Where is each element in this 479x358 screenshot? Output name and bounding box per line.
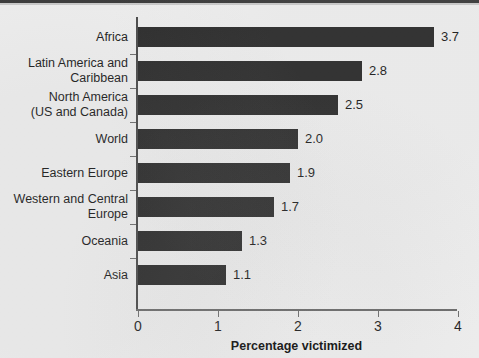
bar <box>138 163 290 183</box>
bar <box>138 197 274 217</box>
bar-value-label: 2.8 <box>369 61 387 81</box>
x-axis-tick <box>298 311 299 317</box>
bar-value-label: 1.9 <box>297 163 315 183</box>
category-label: Western and Central Europe <box>0 192 128 222</box>
x-axis-tick <box>218 311 219 317</box>
plot-area: Africa3.7Latin America and Caribbean2.8N… <box>0 0 479 358</box>
y-axis-tick <box>130 258 136 259</box>
x-axis-tick-label: 3 <box>363 318 393 334</box>
bar <box>138 27 434 47</box>
x-axis-tick <box>138 311 139 317</box>
bar-value-label: 1.7 <box>281 197 299 217</box>
bar <box>138 231 242 251</box>
x-axis-tick-label: 1 <box>203 318 233 334</box>
y-axis-tick <box>130 54 136 55</box>
x-axis-title: Percentage victimized <box>136 339 457 353</box>
x-axis-tick <box>458 311 459 317</box>
x-axis-tick-label: 2 <box>283 318 313 334</box>
category-label: Oceania <box>0 234 128 249</box>
y-axis-tick <box>130 190 136 191</box>
x-axis-line <box>136 309 457 311</box>
bar-value-label: 1.1 <box>233 265 251 285</box>
chart-figure: Africa3.7Latin America and Caribbean2.8N… <box>0 0 479 358</box>
y-axis-tick <box>130 156 136 157</box>
category-label: North America (US and Canada) <box>0 90 128 120</box>
y-axis-tick <box>130 88 136 89</box>
category-label: Latin America and Caribbean <box>0 56 128 86</box>
category-label: World <box>0 132 128 147</box>
bar <box>138 129 298 149</box>
x-axis-tick-label: 4 <box>443 318 473 334</box>
bar-value-label: 3.7 <box>441 27 459 47</box>
x-axis-tick <box>378 311 379 317</box>
bar-value-label: 2.0 <box>305 129 323 149</box>
x-axis-tick-label: 0 <box>123 318 153 334</box>
category-label: Africa <box>0 30 128 45</box>
category-label: Eastern Europe <box>0 166 128 181</box>
y-axis-tick <box>130 224 136 225</box>
bar <box>138 61 362 81</box>
y-axis-tick <box>130 122 136 123</box>
bar <box>138 95 338 115</box>
category-label: Asia <box>0 268 128 283</box>
bar-value-label: 2.5 <box>345 95 363 115</box>
bar-value-label: 1.3 <box>249 231 267 251</box>
bar <box>138 265 226 285</box>
